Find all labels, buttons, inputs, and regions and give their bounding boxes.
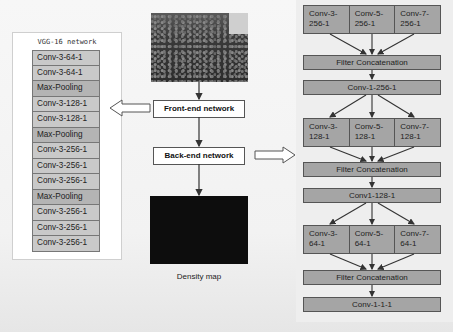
arrow-icon [330,203,366,224]
arrow-icon [378,147,414,161]
arrow-icon [330,147,366,161]
arrow-icon [330,95,366,117]
arrows-layer [0,0,453,332]
hollow-arrow-left-icon [110,100,150,116]
hollow-arrow-right-icon [255,147,295,163]
arrow-icon [378,95,414,117]
arrow-icon [330,34,366,54]
arrow-icon [330,254,366,269]
arrow-icon [378,254,414,269]
arrow-icon [378,203,414,224]
arrow-icon [378,34,414,54]
